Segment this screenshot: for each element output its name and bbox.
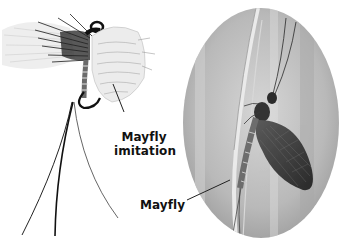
- label-imitation-line2: imitation: [114, 144, 174, 158]
- label-mayfly-imitation: Mayfly imitation: [114, 130, 174, 158]
- real-mayfly-photo: [183, 0, 339, 239]
- mayfly-comparison-figure: Mayfly imitation Mayfly: [0, 0, 340, 239]
- label-imitation-line1: Mayfly: [114, 130, 174, 144]
- label-mayfly: Mayfly: [140, 198, 190, 212]
- fly-imitation-illustration: [2, 14, 155, 236]
